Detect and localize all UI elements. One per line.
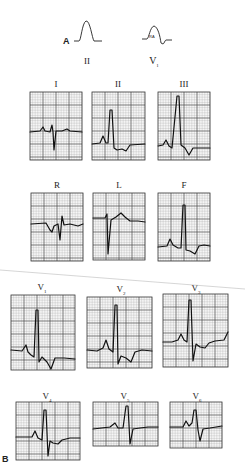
ecg-strip-v6 bbox=[170, 402, 222, 448]
ecg-strip-avr bbox=[31, 193, 83, 261]
ecg-strip-v5 bbox=[93, 402, 158, 446]
ecg-strip-avl bbox=[93, 193, 145, 260]
ecg-strip-v3 bbox=[163, 294, 228, 367]
ecg-strip-v4 bbox=[16, 402, 80, 460]
ecg-strip-v2 bbox=[87, 297, 152, 368]
lead-v1-p-wave bbox=[142, 26, 172, 44]
ecg-strip-i bbox=[30, 92, 82, 160]
lead-ii-p-wave bbox=[74, 21, 102, 41]
divider-line bbox=[0, 270, 245, 289]
ecg-figure bbox=[0, 0, 245, 473]
ecg-paper-v2 bbox=[87, 297, 152, 368]
ecg-strip-v1 bbox=[11, 295, 75, 370]
ecg-strip-iii bbox=[158, 92, 210, 160]
ecg-strip-ii bbox=[92, 92, 145, 160]
ecg-strip-avf bbox=[158, 193, 210, 261]
